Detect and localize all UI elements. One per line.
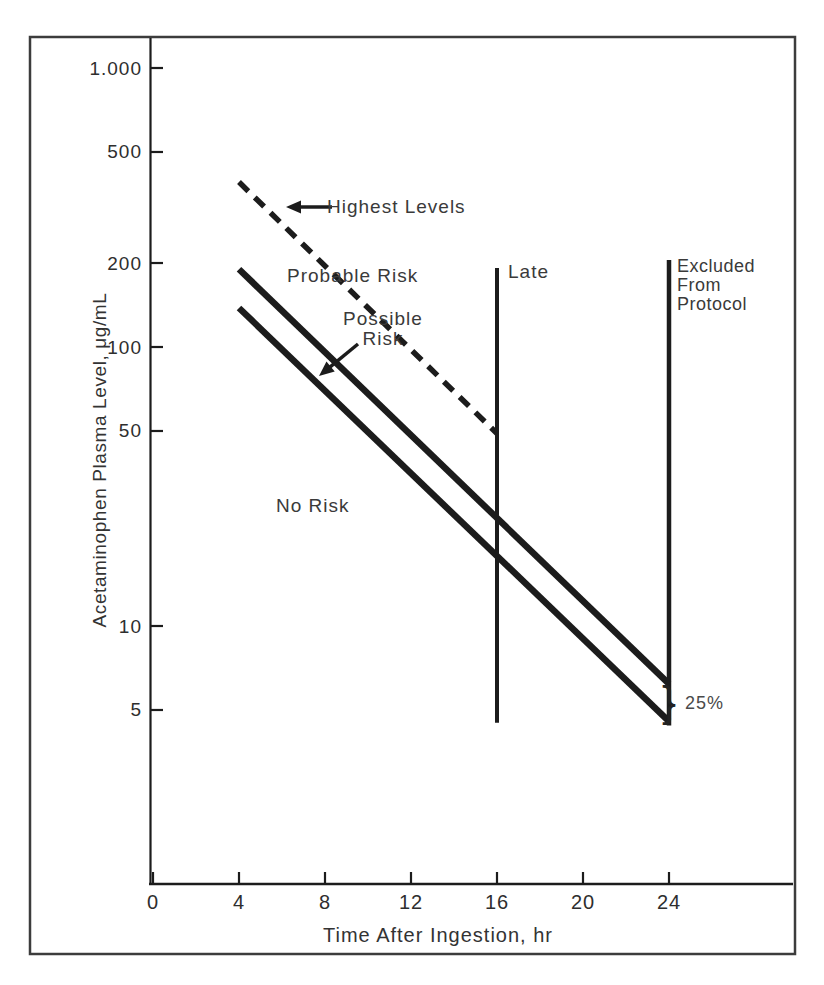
difference-percent-label: 25% xyxy=(685,693,724,714)
y-axis-title: Acetaminophen Plasma Level, μg/mL xyxy=(89,293,111,628)
nomogram-figure: 1.0005002001005010504812162024 Acetamino… xyxy=(0,0,824,985)
y-tick-label: 200 xyxy=(107,253,142,274)
x-axis-title: Time After Ingestion, hr xyxy=(323,924,553,947)
probable-risk-line xyxy=(239,269,669,684)
x-tick-label: 4 xyxy=(233,891,245,913)
x-tick-label: 20 xyxy=(571,891,595,913)
x-tick-label: 12 xyxy=(399,891,423,913)
difference-brace: } xyxy=(662,681,676,723)
y-tick-label: 100 xyxy=(107,337,142,358)
y-tick-label: 5 xyxy=(130,699,142,720)
no-risk-label: No Risk xyxy=(276,495,350,517)
figure-border xyxy=(30,37,795,954)
y-tick-label: 50 xyxy=(119,420,142,441)
x-tick-label: 8 xyxy=(319,891,331,913)
x-tick-label: 0 xyxy=(147,891,159,913)
highest-levels-arrow-head xyxy=(286,201,301,214)
possible-risk-label: Possible Risk xyxy=(332,309,434,349)
probable-risk-label: Probable Risk xyxy=(287,265,418,287)
late-label: Late xyxy=(508,261,549,283)
y-tick-label: 1.000 xyxy=(89,58,142,79)
y-tick-label: 500 xyxy=(107,141,142,162)
chart-canvas: 1.0005002001005010504812162024 xyxy=(0,0,824,985)
x-tick-label: 16 xyxy=(485,891,509,913)
y-tick-label: 10 xyxy=(119,616,142,637)
excluded-from-protocol-label: Excluded From Protocol xyxy=(677,257,775,314)
x-tick-label: 24 xyxy=(657,891,681,913)
highest-levels-label: Highest Levels xyxy=(327,196,466,218)
